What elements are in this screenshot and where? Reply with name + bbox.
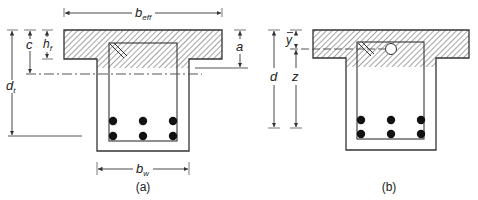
- rebars-a: [109, 117, 177, 140]
- label-y-bar: y: [285, 33, 293, 47]
- label-z: z: [291, 69, 299, 84]
- label-c: c: [26, 37, 33, 52]
- label-b-w: bw: [136, 161, 150, 178]
- rebars-b: [357, 116, 425, 138]
- label-a: a: [236, 39, 243, 54]
- t-beam-diagram: beff dt c hf a bw (a): [0, 0, 478, 200]
- panel-b: d y z (b): [268, 30, 469, 194]
- panel-a: beff dt c hf a bw (a): [6, 5, 248, 194]
- label-d: d: [270, 69, 278, 84]
- label-b-eff: beff: [135, 5, 152, 22]
- caption-b: (b): [382, 180, 397, 194]
- label-h-f: hf: [43, 37, 53, 53]
- caption-a: (a): [136, 180, 151, 194]
- compression-zone-a: [64, 30, 222, 68]
- label-d-t: dt: [6, 78, 16, 95]
- centroid-marker: [386, 44, 397, 55]
